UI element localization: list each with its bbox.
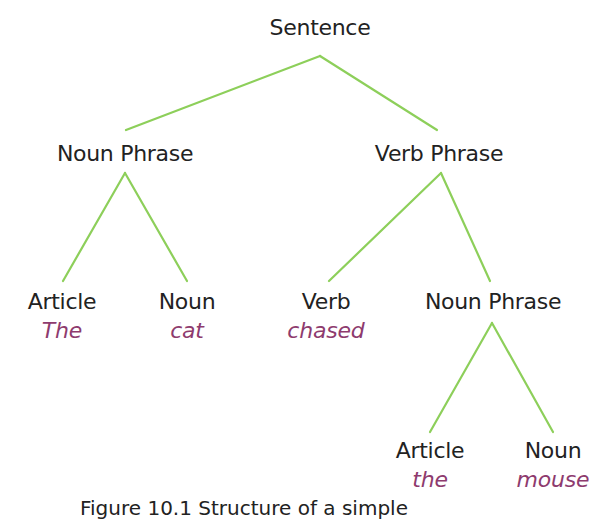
node-verb-phrase: Verb Phrase [375, 140, 503, 168]
node-noun-phrase: Noun Phrase [425, 288, 561, 316]
node-word: the [396, 465, 464, 495]
tree-edge [125, 173, 187, 281]
node-noun-phrase: Noun Phrase [57, 140, 193, 168]
node-word: chased [287, 316, 364, 346]
node-verb: Verb chased [287, 288, 364, 346]
node-label: Verb Phrase [375, 140, 503, 168]
node-noun: Noun cat [159, 288, 216, 346]
node-word: The [28, 316, 96, 346]
node-word: cat [159, 316, 216, 346]
node-label: Article [28, 288, 96, 316]
node-label: Noun [159, 288, 216, 316]
node-sentence: Sentence [270, 14, 371, 42]
figure-caption: Figure 10.1 Structure of a simple [80, 496, 408, 520]
tree-edge [320, 56, 437, 130]
tree-edge [63, 173, 125, 281]
tree-edge [430, 323, 492, 432]
node-word: mouse [517, 465, 590, 495]
node-label: Article [396, 437, 464, 465]
node-label: Noun [517, 437, 590, 465]
tree-edge [126, 56, 320, 130]
node-article: Article The [28, 288, 96, 346]
node-label: Verb [287, 288, 364, 316]
node-label: Sentence [270, 14, 371, 42]
node-article: Article the [396, 437, 464, 495]
node-noun: Noun mouse [517, 437, 590, 495]
node-label: Noun Phrase [57, 140, 193, 168]
tree-edge [492, 323, 553, 432]
node-label: Noun Phrase [425, 288, 561, 316]
tree-edge [329, 173, 441, 281]
tree-edge [441, 173, 490, 281]
